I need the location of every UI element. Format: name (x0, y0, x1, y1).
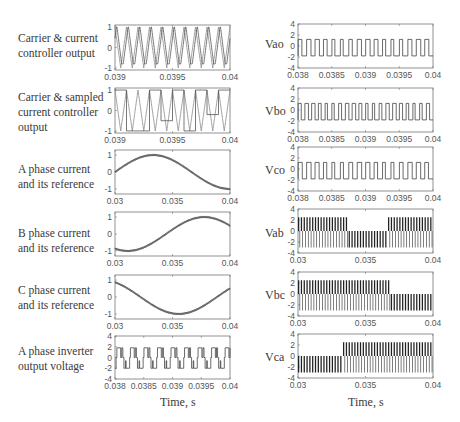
x-tick-label: 0.035 (162, 196, 184, 206)
x-tick-label: 0.04 (222, 381, 239, 391)
y-tick-label: 1 (107, 22, 112, 32)
chart-vco: 0.0380.03850.0390.03950.04-4-2024 (287, 142, 441, 203)
x-tick-label: 0.0395 (160, 72, 186, 82)
y-tick-label: 2 (290, 215, 295, 225)
x-tick-label: 0.04 (222, 135, 239, 145)
y-tick-label: -2 (287, 175, 295, 185)
x-tick-label: 0.0395 (188, 381, 214, 391)
x-tick-label: 0.03 (107, 321, 124, 331)
chart-ib: 0.030.0350.04-101 (104, 212, 238, 268)
x-tick-label: 0.04 (425, 70, 442, 80)
x-tick-label: 0.04 (425, 255, 442, 265)
x-tick-label: 0.035 (162, 258, 184, 268)
y-tick-label: 0 (290, 105, 295, 115)
y-tick-label: -1 (104, 246, 112, 256)
x-tick-label: 0.04 (425, 318, 442, 328)
y-tick-label: 4 (107, 331, 112, 341)
x-tick-label: 0.039 (104, 135, 126, 145)
plot-area (115, 150, 230, 194)
y-tick-label: 2 (290, 30, 295, 40)
y-tick-label: 0 (107, 167, 112, 177)
chart-vca: 0.030.0350.04-4-2024 (287, 329, 441, 390)
x-tick-label: 0.035 (162, 321, 184, 331)
x-tick-label: 0.03 (107, 258, 124, 268)
y-tick-label: 1 (107, 85, 112, 95)
y-tick-label: -4 (287, 373, 295, 383)
plot-area (115, 25, 230, 70)
x-tick-label: 0.0395 (386, 193, 412, 203)
y-tick-label: 0 (290, 289, 295, 299)
y-tick-label: 1 (107, 150, 112, 160)
chart-va: 0.0380.03850.0390.03950.04-4-2024 (104, 331, 238, 391)
y-tick-label: -4 (287, 127, 295, 137)
y-tick-label: -2 (287, 362, 295, 372)
x-tick-label: 0.0385 (319, 70, 345, 80)
x-tick-label: 0.0385 (319, 134, 345, 144)
y-tick-label: -4 (287, 311, 295, 321)
y-tick-label: -4 (104, 374, 112, 384)
x-tick-label: 0.035 (355, 380, 377, 390)
x-tick-label: 0.035 (355, 255, 377, 265)
x-tick-label: 0.0385 (319, 193, 345, 203)
y-tick-label: 2 (290, 153, 295, 163)
y-tick-label: -4 (287, 186, 295, 196)
y-tick-label: -4 (287, 63, 295, 73)
y-tick-label: 4 (290, 204, 295, 214)
y-tick-label: 1 (107, 212, 112, 222)
x-tick-label: 0.035 (355, 318, 377, 328)
x-tick-label: 0.039 (355, 193, 377, 203)
x-tick-label: 0.039 (355, 134, 377, 144)
y-tick-label: -1 (104, 309, 112, 319)
y-tick-label: 2 (290, 278, 295, 288)
y-tick-label: 0 (107, 106, 112, 116)
x-tick-label: 0.039 (104, 72, 126, 82)
chart-vbo: 0.0380.03850.0390.03950.04-4-2024 (287, 83, 441, 144)
y-tick-label: 2 (107, 342, 112, 352)
y-tick-label: 4 (290, 142, 295, 152)
y-tick-label: -2 (104, 363, 112, 373)
x-tick-label: 0.039 (162, 381, 184, 391)
y-tick-label: -2 (287, 300, 295, 310)
x-tick-label: 0.039 (355, 70, 377, 80)
y-tick-label: 4 (290, 329, 295, 339)
x-tick-label: 0.0395 (160, 135, 186, 145)
y-tick-label: 2 (290, 340, 295, 350)
x-tick-label: 0.04 (222, 196, 239, 206)
y-tick-label: -2 (287, 52, 295, 62)
y-tick-label: 0 (107, 43, 112, 53)
y-tick-label: -2 (287, 237, 295, 247)
chart-vab: 0.030.0350.04-4-2024 (287, 204, 441, 265)
y-tick-label: -4 (287, 248, 295, 258)
x-tick-label: 0.04 (222, 72, 239, 82)
x-tick-label: 0.04 (222, 258, 239, 268)
y-tick-label: 4 (290, 19, 295, 29)
chart-ic: 0.030.0350.04-101 (104, 275, 238, 331)
y-tick-label: -1 (104, 184, 112, 194)
y-tick-label: 0 (107, 229, 112, 239)
y-tick-label: 0 (290, 41, 295, 51)
chart-vbc: 0.030.0350.04-4-2024 (287, 267, 441, 328)
y-tick-label: 0 (290, 164, 295, 174)
x-tick-label: 0.0395 (386, 134, 412, 144)
y-tick-label: 0 (107, 353, 112, 363)
plot-area (115, 336, 230, 379)
x-tick-label: 0.03 (107, 196, 124, 206)
y-tick-label: 4 (290, 83, 295, 93)
chart-carrier-current: 0.0390.03950.04-101 (104, 22, 238, 82)
x-tick-label: 0.04 (425, 380, 442, 390)
y-tick-label: -2 (287, 116, 295, 126)
y-tick-label: 0 (290, 351, 295, 361)
chart-vao: 0.0380.03850.0390.03950.04-4-2024 (287, 19, 441, 80)
y-tick-label: 1 (107, 275, 112, 285)
chart-canvas: 0.0390.03950.04-1010.0390.03950.04-1010.… (0, 0, 460, 422)
y-tick-label: 4 (290, 267, 295, 277)
y-tick-label: -1 (104, 126, 112, 136)
x-tick-label: 0.0385 (131, 381, 157, 391)
chart-ia: 0.030.0350.04-101 (104, 150, 238, 206)
x-tick-label: 0.04 (222, 321, 239, 331)
x-tick-label: 0.04 (425, 193, 442, 203)
y-tick-label: 0 (290, 226, 295, 236)
x-tick-label: 0.0395 (386, 70, 412, 80)
chart-carrier-sampled: 0.0390.03950.04-101 (104, 85, 238, 145)
x-tick-label: 0.04 (425, 134, 442, 144)
